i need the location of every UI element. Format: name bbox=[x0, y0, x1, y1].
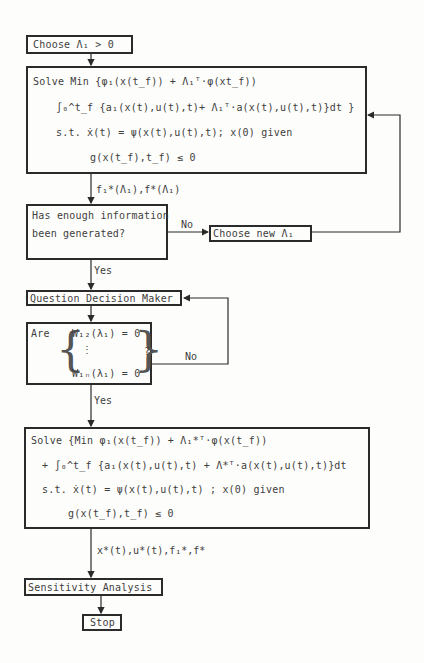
sensitivity-analysis-box: Sensitivity Analysis bbox=[24, 578, 163, 596]
solve-line-1: Solve Min {φ₁(x(t_f)) + Λ₁ᵀ·φ(xt_f)) bbox=[33, 76, 257, 87]
question-decision-maker-label: Question Decision Maker bbox=[30, 293, 173, 304]
solve-output-label: f₁*(Λ₁),f*(Λ₁) bbox=[96, 184, 180, 195]
solve2-output-label: x*(t),u*(t),f₁*,f* bbox=[97, 545, 205, 556]
decision1-line-2: been generated? bbox=[32, 228, 125, 239]
tradeoff-check-decision: Are { W₁₂(λ₁) = 0 ⋮ W₁ₙ(λ₁) = 0 } ? bbox=[26, 322, 152, 385]
solve-final-box: Solve {Min φ₁(x(t_f)) + Λ₁*ᵀ·φ(x(t_f)) +… bbox=[24, 427, 370, 529]
solve2-line-3: s.t. ẋ(t) = ψ(x(t),u(t),t) ; x(0) given bbox=[42, 484, 285, 495]
solve-min-box: Solve Min {φ₁(x(t_f)) + Λ₁ᵀ·φ(xt_f)) ∫₀^… bbox=[26, 66, 367, 174]
enough-information-decision: Has enough information been generated? bbox=[26, 204, 168, 260]
tradeoff-line-3: W₁ₙ(λ₁) = 0 bbox=[72, 368, 140, 379]
solve2-line-1: Solve {Min φ₁(x(t_f)) + Λ₁*ᵀ·φ(x(t_f)) bbox=[31, 435, 267, 446]
question-decision-maker-box: Question Decision Maker bbox=[26, 290, 182, 306]
solve-line-2: ∫₀^t_f {a₁(x(t),u(t),t)+ Λ₁ᵀ·a(x(t),u(t)… bbox=[56, 102, 355, 113]
decision1-no-label: No bbox=[181, 219, 193, 230]
choose-new-lambda-box: Choose new Λ₁ bbox=[209, 225, 312, 242]
choose-new-lambda-label: Choose new Λ₁ bbox=[213, 228, 294, 239]
decision1-yes-label: Yes bbox=[94, 265, 112, 276]
solve2-line-4: g(x(t_f),t_f) ≤ 0 bbox=[68, 508, 174, 519]
stop-label: Stop bbox=[90, 617, 115, 628]
choose-lambda-box: Choose Λ₁ > 0 bbox=[26, 35, 133, 54]
tradeoff-line-2: ⋮ bbox=[82, 344, 92, 355]
choose-lambda-label: Choose Λ₁ > 0 bbox=[33, 39, 114, 50]
question-mark: ? bbox=[144, 346, 150, 357]
solve-line-4: g(x(t_f),t_f) ≤ 0 bbox=[90, 152, 196, 163]
stop-box: Stop bbox=[82, 614, 122, 631]
tradeoff-line-1: W₁₂(λ₁) = 0 bbox=[72, 328, 140, 339]
solve-line-3: s.t. ẋ(t) = ψ(x(t),u(t),t); x(0) given bbox=[56, 127, 292, 138]
sensitivity-analysis-label: Sensitivity Analysis bbox=[28, 582, 152, 593]
are-label: Are bbox=[31, 328, 50, 339]
decision2-no-label: No bbox=[185, 351, 197, 362]
decision1-line-1: Has enough information bbox=[32, 210, 169, 221]
solve2-line-2: + ∫₀^t_f {a₁(x(t),u(t),t) + Λ*ᵀ·a(x(t),u… bbox=[42, 460, 347, 471]
decision2-yes-label: Yes bbox=[94, 395, 112, 406]
